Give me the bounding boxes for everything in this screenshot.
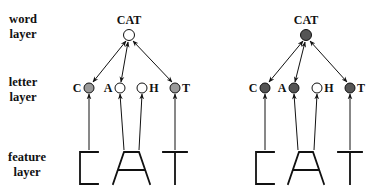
letter-node-c (260, 83, 270, 93)
letter-layer-label-line2: layer (9, 90, 37, 104)
word-layer-label-line2: layer (9, 27, 37, 41)
feature-letter-c (80, 152, 98, 184)
letter-node-t (170, 83, 180, 93)
edge-feature-a-to-a (120, 94, 124, 150)
edge-cat-c (93, 41, 126, 82)
letter-layer-label-line1: letter (9, 75, 38, 89)
letter-node-label-c: C (73, 81, 82, 95)
letter-node-a (289, 83, 299, 93)
letter-node-c (84, 83, 94, 93)
edge-cat-a (295, 42, 305, 82)
letter-node-label-a: A (278, 81, 287, 95)
letter-node-label-a: A (104, 81, 113, 95)
edge-feature-a-to-h (314, 94, 317, 150)
edge-cat-a (121, 42, 128, 82)
feature-letter-c (256, 152, 274, 184)
edge-cat-t (310, 41, 347, 82)
word-layer-label-line1: word (9, 12, 37, 26)
edge-feature-a-to-h (139, 94, 142, 150)
word-node-label: CAT (294, 13, 318, 27)
letter-node-label-c: C (249, 81, 258, 95)
feature-letter-t (338, 152, 362, 184)
interactive-activation-diagram: word layer letter layer feature layer CA… (0, 0, 380, 189)
letter-node-label-t: T (182, 81, 190, 95)
letter-node-h (137, 83, 147, 93)
letter-node-label-h: H (324, 81, 334, 95)
letter-node-h (312, 83, 322, 93)
panel-right: CAT C A H T (249, 13, 365, 184)
edge-cat-c (269, 41, 303, 82)
panel-left: CAT C A H T (73, 13, 190, 184)
letter-node-label-h: H (149, 81, 159, 95)
feature-layer-label-line1: feature (8, 150, 46, 164)
edge-feature-a-to-a (294, 94, 298, 150)
feature-layer-label-line2: layer (13, 165, 41, 179)
letter-node-t (345, 83, 355, 93)
layer-label-letter: letter layer (9, 75, 38, 104)
word-node-label: CAT (117, 13, 141, 27)
edge-cat-t (133, 41, 172, 82)
word-node-cat (124, 30, 135, 41)
feature-letter-a (288, 152, 324, 184)
word-node-cat (301, 30, 312, 41)
feature-letter-a (113, 152, 150, 184)
letter-node-a (115, 83, 125, 93)
letter-node-label-t: T (357, 81, 365, 95)
feature-letter-t (163, 152, 187, 184)
layer-label-word: word layer (9, 12, 37, 41)
layer-label-feature: feature layer (8, 150, 46, 179)
